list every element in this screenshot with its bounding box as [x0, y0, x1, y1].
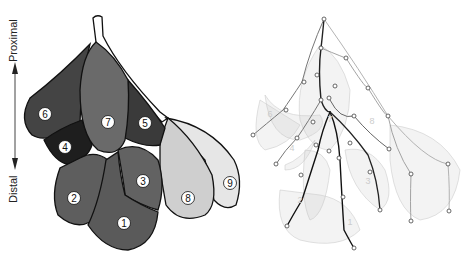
right-skeleton-diagram: 6 7 4 2 1 3 8	[251, 17, 460, 250]
faint-label-2: 2	[297, 195, 302, 205]
svg-text:1: 1	[121, 218, 127, 229]
svg-text:2: 2	[71, 193, 77, 204]
label-8: 8	[182, 192, 195, 205]
svg-text:9: 9	[227, 178, 233, 189]
label-2: 2	[68, 192, 81, 205]
faint-label-8: 8	[369, 116, 374, 126]
faint-label-7: 7	[327, 114, 332, 124]
region-7	[80, 42, 129, 152]
label-4: 4	[59, 141, 72, 154]
label-9: 9	[224, 177, 237, 190]
svg-text:5: 5	[142, 118, 148, 129]
svg-text:4: 4	[62, 142, 68, 153]
svg-text:3: 3	[140, 176, 146, 187]
svg-text:6: 6	[42, 109, 48, 120]
faint-label-4: 4	[289, 143, 294, 153]
label-1: 1	[118, 217, 131, 230]
svg-text:8: 8	[185, 193, 191, 204]
proximal-distal-arrow	[12, 62, 18, 170]
faint-label-1: 1	[347, 217, 352, 227]
label-7: 7	[102, 116, 115, 129]
left-lobe-diagram	[24, 16, 239, 250]
label-6: 6	[39, 108, 52, 121]
label-3: 3	[137, 175, 150, 188]
figure: Proximal Distal	[0, 0, 476, 261]
figure-svg: 6 7 5 4 3 2 1 8 9	[0, 0, 476, 261]
svg-text:7: 7	[105, 117, 111, 128]
faint-label-6: 6	[267, 109, 272, 119]
faint-label-3: 3	[365, 176, 370, 186]
label-5: 5	[139, 117, 152, 130]
